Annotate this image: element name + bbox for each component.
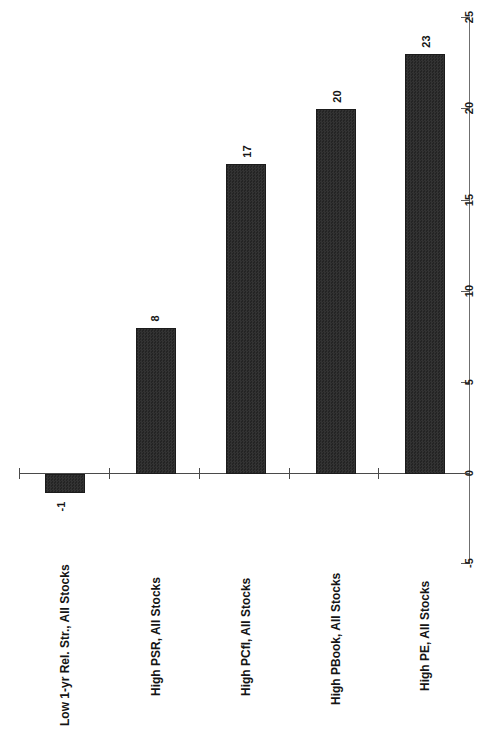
bar-value-label: -1 <box>56 502 67 512</box>
value-axis-label-text: 15 <box>464 194 475 207</box>
value-axis-label: 20 <box>468 102 479 115</box>
bar <box>316 109 356 474</box>
bar <box>405 54 445 474</box>
category-label: High PE, All Stocks <box>419 581 431 691</box>
value-axis-label: 25 <box>468 11 479 24</box>
category-label: Low 1-yr Rel. Str., All Stocks <box>59 564 71 726</box>
value-axis-label: -5 <box>468 558 479 568</box>
category-axis-tick <box>289 468 290 479</box>
category-axis-tick <box>199 468 200 479</box>
value-axis-label-text: 10 <box>464 285 475 298</box>
value-axis-label-text: 20 <box>464 102 475 115</box>
bar-value-label: 20 <box>332 90 343 102</box>
category-axis-tick <box>378 468 379 479</box>
bar <box>136 328 176 474</box>
value-axis-label: 10 <box>468 285 479 298</box>
value-axis-label-text: 5 <box>464 379 475 385</box>
value-axis-label-text: 25 <box>464 11 475 24</box>
bar-value-label: 23 <box>421 35 432 47</box>
bar-value-label: 8 <box>150 315 161 321</box>
bar-chart: 25 20 15 10 5 0 -5 -1 8 17 20 23 Low 1-y… <box>0 0 504 741</box>
category-axis-tick <box>19 468 20 479</box>
bar-value-label: 17 <box>242 145 253 157</box>
value-axis-label: 15 <box>468 194 479 207</box>
bar <box>226 164 266 474</box>
bar <box>45 474 85 493</box>
category-label: High PBook, All Stocks <box>330 573 342 705</box>
value-axis-label: 5 <box>468 379 479 385</box>
category-axis-tick <box>109 468 110 479</box>
category-label: High PCfl, All Stocks <box>240 578 252 696</box>
category-label: High PSR, All Stocks <box>150 577 162 696</box>
value-axis-label-text: -5 <box>464 558 475 568</box>
